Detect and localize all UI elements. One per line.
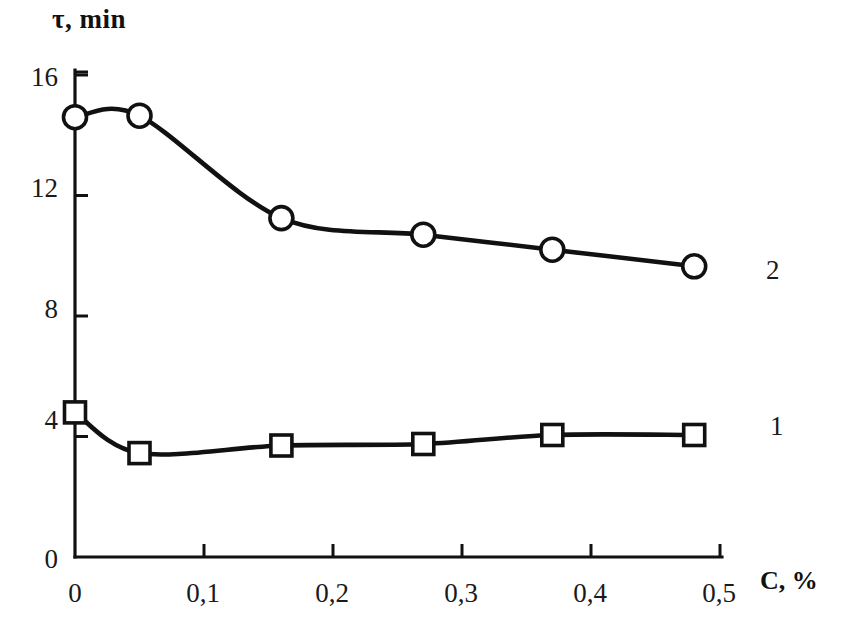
marker-series-2-point-5	[683, 255, 706, 278]
marker-series-2-point-3	[412, 223, 435, 246]
x-axis-title: C, %	[760, 566, 818, 596]
y-tick-label-4: 4	[2, 405, 58, 436]
marker-series-2-point-1	[128, 104, 151, 127]
x-tick-label-0-4: 0,4	[550, 578, 630, 609]
marker-series-1-point-1	[129, 443, 150, 464]
plot-area	[0, 0, 863, 633]
x-axis-ticks	[204, 544, 720, 557]
y-tick-label-12: 12	[2, 173, 58, 204]
y-tick-label-0: 0	[2, 544, 58, 575]
marker-series-2-point-0	[64, 106, 87, 129]
series-markers	[64, 104, 706, 463]
x-tick-label-0-1: 0,1	[163, 578, 243, 609]
y-axis-title: τ, min	[52, 4, 126, 35]
chart-figure: τ, min C, % 16 12 8 4 0 0 0,1 0,2 0,3 0,…	[0, 0, 863, 633]
series-lines	[75, 109, 694, 455]
marker-series-1-point-3	[413, 434, 434, 455]
marker-series-2-point-4	[541, 238, 564, 261]
marker-series-1-point-0	[65, 402, 86, 423]
axis-lines	[75, 70, 722, 557]
marker-series-1-point-4	[542, 425, 563, 446]
series-label-1: 1	[770, 411, 784, 442]
marker-series-1-point-5	[684, 425, 705, 446]
marker-series-1-point-2	[271, 435, 292, 456]
x-tick-label-0-2: 0,2	[292, 578, 372, 609]
x-tick-label-0: 0	[35, 578, 115, 609]
y-tick-label-16: 16	[2, 62, 58, 93]
marker-series-2-point-2	[270, 207, 293, 230]
y-tick-label-8: 8	[2, 294, 58, 325]
series-line-1	[75, 412, 694, 454]
series-line-2	[75, 109, 694, 266]
x-tick-label-0-5: 0,5	[679, 578, 759, 609]
series-label-2: 2	[766, 255, 780, 286]
x-tick-label-0-3: 0,3	[421, 578, 501, 609]
